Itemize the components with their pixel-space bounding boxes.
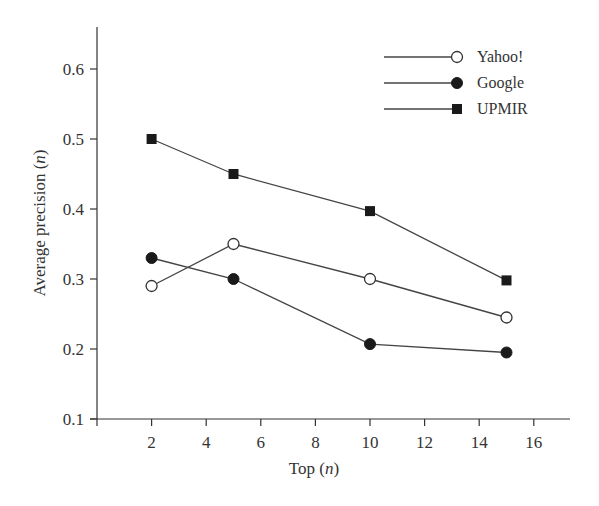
- data-point: [146, 281, 157, 292]
- legend-marker: [452, 52, 463, 63]
- data-point: [501, 312, 512, 323]
- data-point: [147, 134, 157, 144]
- y-tick-label: 0.2: [63, 340, 84, 359]
- y-axis-label: Average precision (n): [30, 150, 49, 297]
- legend-label: Google: [477, 74, 524, 92]
- series-group: [146, 134, 512, 358]
- data-point: [365, 274, 376, 285]
- legend-label: UPMIR: [477, 100, 528, 117]
- x-tick-label: 4: [202, 433, 211, 452]
- x-tick-label: 14: [471, 433, 489, 452]
- legend-marker: [452, 78, 463, 89]
- y-tick-label: 0.5: [63, 130, 84, 149]
- legend-item: Yahoo!: [384, 48, 523, 65]
- series-yahoo: [146, 239, 512, 324]
- x-ticks: 246810121416: [147, 419, 542, 452]
- x-tick-label: 6: [257, 433, 266, 452]
- series-line: [152, 244, 507, 318]
- x-tick-label: 12: [416, 433, 433, 452]
- legend-label: Yahoo!: [477, 48, 523, 65]
- data-point: [365, 339, 376, 350]
- series-line: [152, 258, 507, 353]
- y-tick-label: 0.3: [63, 270, 84, 289]
- x-tick-label: 16: [525, 433, 542, 452]
- data-point: [146, 253, 157, 264]
- line-chart: 0.10.20.30.40.50.6 246810121416 Yahoo!Go…: [0, 0, 599, 506]
- legend-marker: [452, 104, 462, 114]
- data-point: [502, 275, 512, 285]
- data-point: [365, 206, 375, 216]
- data-point: [228, 239, 239, 250]
- legend-item: UPMIR: [384, 100, 528, 117]
- y-ticks: 0.10.20.30.40.50.6: [63, 60, 97, 429]
- x-axis-label: Top (n): [289, 459, 339, 478]
- y-tick-label: 0.1: [63, 410, 84, 429]
- data-point: [229, 169, 239, 179]
- series-upmir: [147, 134, 512, 285]
- x-tick-label: 2: [147, 433, 156, 452]
- x-tick-label: 10: [362, 433, 379, 452]
- legend-item: Google: [384, 74, 524, 92]
- y-tick-label: 0.6: [63, 60, 84, 79]
- data-point: [228, 274, 239, 285]
- y-tick-label: 0.4: [63, 200, 85, 219]
- data-point: [501, 347, 512, 358]
- x-tick-label: 8: [311, 433, 320, 452]
- legend: Yahoo!GoogleUPMIR: [384, 48, 528, 117]
